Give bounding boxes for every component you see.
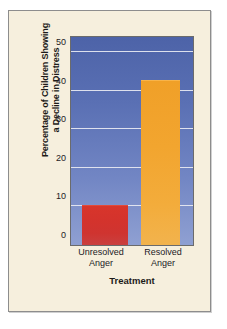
bar-resolved-anger xyxy=(141,80,180,245)
x-tick-label-0: UnresolvedAnger xyxy=(70,247,132,269)
x-tick-label-1: ResolvedAnger xyxy=(132,247,194,269)
bar-unresolved-anger xyxy=(82,205,128,245)
x-tick-label-0-line-2: Anger xyxy=(70,258,132,269)
x-tick-label-0-line-1: Unresolved xyxy=(78,247,124,257)
plot-area xyxy=(70,36,194,246)
y-tick-label-40: 40 xyxy=(44,77,66,86)
y-tick-label-0: 0 xyxy=(44,231,66,240)
y-axis-tick-labels: 01020304050 xyxy=(40,36,66,244)
y-tick-label-30: 30 xyxy=(44,115,66,124)
y-tick-label-10: 10 xyxy=(44,192,66,201)
y-tick-label-50: 50 xyxy=(44,38,66,47)
gridline-50 xyxy=(71,51,193,52)
x-axis-title: Treatment xyxy=(70,275,194,286)
x-axis-tick-labels: UnresolvedAngerResolvedAnger xyxy=(70,247,194,269)
x-tick-label-1-line-2: Anger xyxy=(132,258,194,269)
figure-card: Percentage of Children Showing a Decline… xyxy=(8,10,211,312)
x-tick-label-1-line-1: Resolved xyxy=(144,247,182,257)
y-tick-label-20: 20 xyxy=(44,154,66,163)
